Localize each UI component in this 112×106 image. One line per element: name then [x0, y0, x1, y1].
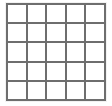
grid-cell[interactable]: [28, 63, 46, 80]
grid-cell[interactable]: [47, 63, 65, 80]
grid-cell[interactable]: [8, 63, 26, 80]
grid-cell[interactable]: [47, 82, 65, 99]
grid-cell[interactable]: [86, 5, 104, 22]
grid-cell[interactable]: [8, 5, 26, 22]
grid-cell[interactable]: [28, 43, 46, 60]
grid-cell[interactable]: [8, 43, 26, 60]
grid-cell[interactable]: [86, 82, 104, 99]
grid-cell[interactable]: [86, 24, 104, 41]
grid-cell[interactable]: [28, 24, 46, 41]
grid-cell[interactable]: [67, 5, 85, 22]
grid-cell[interactable]: [8, 24, 26, 41]
grid-cell[interactable]: [67, 63, 85, 80]
grid-cell[interactable]: [47, 43, 65, 60]
grid-cell[interactable]: [28, 5, 46, 22]
grid-cell[interactable]: [67, 43, 85, 60]
grid-cell[interactable]: [8, 82, 26, 99]
grid-cell[interactable]: [47, 24, 65, 41]
grid-diagram: [0, 0, 112, 106]
grid-cell[interactable]: [67, 24, 85, 41]
grid-cell[interactable]: [86, 63, 104, 80]
grid-table: [6, 3, 106, 101]
grid-cell[interactable]: [67, 82, 85, 99]
grid-cell[interactable]: [86, 43, 104, 60]
grid-cell[interactable]: [47, 5, 65, 22]
grid-cell[interactable]: [28, 82, 46, 99]
